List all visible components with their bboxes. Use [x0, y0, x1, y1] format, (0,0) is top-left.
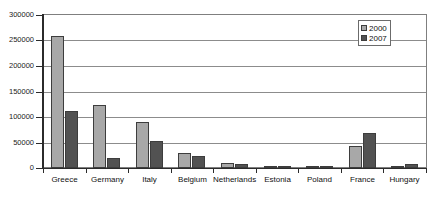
legend-item: 2000	[361, 23, 387, 33]
x-axis-tick	[171, 169, 172, 173]
y-axis-tick	[36, 117, 42, 118]
bar-italy-2007	[150, 141, 163, 168]
legend-item: 2007	[361, 33, 387, 43]
legend-swatch-icon	[361, 25, 367, 31]
x-axis-line	[42, 168, 427, 169]
x-axis-tick	[128, 169, 129, 173]
chart-legend: 20002007	[358, 20, 391, 46]
y-axis-label: 0	[0, 164, 34, 172]
bar-belgium-2007	[192, 156, 205, 168]
bar-estonia-2007	[278, 166, 291, 168]
legend-label: 2007	[369, 34, 387, 43]
x-axis-tick	[86, 169, 87, 173]
bar-greece-2007	[65, 111, 78, 168]
x-axis-label: Greece	[43, 175, 86, 185]
x-axis-label: Italy	[128, 175, 171, 185]
y-axis-label: 300000	[0, 11, 34, 19]
y-axis-label: 50000	[0, 139, 34, 147]
bar-netherlands-2007	[235, 164, 248, 168]
bar-netherlands-2000	[221, 163, 234, 168]
x-axis-label: Estonia	[256, 175, 299, 185]
bar-hungary-2000	[391, 166, 404, 168]
x-axis-tick	[256, 169, 257, 173]
x-axis-tick	[383, 169, 384, 173]
y-axis-tick	[36, 15, 42, 16]
y-axis-tick	[36, 66, 42, 67]
x-axis-label: Belgium	[171, 175, 214, 185]
bar-germany-2000	[93, 105, 106, 168]
legend-label: 2000	[369, 24, 387, 33]
x-axis-label: Poland	[298, 175, 341, 185]
x-axis-tick	[43, 169, 44, 173]
bar-poland-2007	[320, 166, 333, 168]
y-axis-tick	[36, 143, 42, 144]
bar-france-2000	[349, 146, 362, 168]
bar-belgium-2000	[178, 153, 191, 168]
bar-hungary-2007	[405, 164, 418, 168]
x-axis-tick	[213, 169, 214, 173]
bar-greece-2000	[51, 36, 64, 168]
bar-chart: 300000250000200000150000100000500000 Gre…	[0, 0, 434, 197]
x-axis-label: France	[341, 175, 384, 185]
y-axis-label: 200000	[0, 62, 34, 70]
x-axis-tick	[341, 169, 342, 173]
bar-france-2007	[363, 133, 376, 168]
x-axis-label: Hungary	[383, 175, 426, 185]
x-axis-label: Germany	[86, 175, 129, 185]
y-axis-label: 250000	[0, 36, 34, 44]
y-axis-tick	[36, 92, 42, 93]
x-axis-label: Netherlands	[213, 175, 256, 185]
y-axis-label: 100000	[0, 113, 34, 121]
legend-swatch-icon	[361, 35, 367, 41]
x-axis-tick	[298, 169, 299, 173]
y-axis-tick	[36, 40, 42, 41]
bar-estonia-2000	[264, 166, 277, 168]
x-axis-tick	[426, 169, 427, 173]
bar-italy-2000	[136, 122, 149, 168]
bar-poland-2000	[306, 166, 319, 168]
bar-germany-2007	[107, 158, 120, 168]
y-axis-label: 150000	[0, 88, 34, 96]
